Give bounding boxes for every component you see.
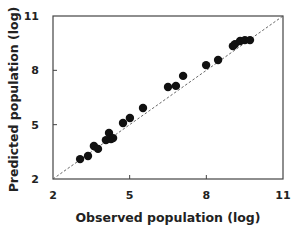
data-point (109, 134, 117, 142)
data-point (84, 152, 92, 160)
data-point (172, 82, 180, 90)
x-axis-title: Observed population (log) (75, 210, 260, 225)
data-point (94, 145, 102, 153)
data-point (202, 61, 210, 69)
data-point (76, 155, 84, 163)
x-tick-label: 8 (203, 189, 211, 202)
data-point (119, 119, 127, 127)
x-tick-label: 11 (275, 189, 290, 202)
y-tick-label: 11 (24, 10, 39, 23)
scatter-chart: 25811 25811 Observed population (log) Pr… (0, 0, 299, 236)
y-tick-label: 2 (31, 173, 39, 186)
data-point (179, 72, 187, 80)
data-point (126, 114, 134, 122)
data-point (139, 104, 147, 112)
y-axis-ticks: 25811 (24, 10, 57, 186)
y-axis-title: Predicted population (log) (6, 7, 21, 193)
x-tick-label: 2 (49, 189, 57, 202)
data-point (214, 56, 222, 64)
data-point (164, 83, 172, 91)
y-tick-label: 5 (31, 119, 39, 132)
data-point (246, 36, 254, 44)
y-tick-label: 8 (31, 64, 39, 77)
x-tick-label: 5 (126, 189, 134, 202)
